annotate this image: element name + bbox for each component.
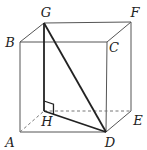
- vertex-label-d: D: [105, 136, 115, 149]
- edge-gf: [44, 22, 131, 23]
- vertex-label-a: A: [5, 136, 14, 149]
- vertex-label-c: C: [109, 41, 119, 54]
- vertex-label-e: E: [133, 114, 143, 127]
- segment-gd: [44, 23, 106, 132]
- edge-cd: [106, 42, 107, 132]
- vertex-label-f: F: [130, 6, 139, 19]
- vertex-label-b: B: [5, 36, 15, 49]
- edge-bg: [20, 23, 44, 42]
- diagram-canvas: [0, 0, 147, 150]
- bold-segments: [44, 23, 106, 132]
- vertex-label-h: H: [41, 115, 52, 128]
- edge-de: [106, 111, 131, 132]
- vertex-label-g: G: [41, 6, 51, 19]
- cuboid-diagram: A B C D E F G H: [0, 0, 147, 150]
